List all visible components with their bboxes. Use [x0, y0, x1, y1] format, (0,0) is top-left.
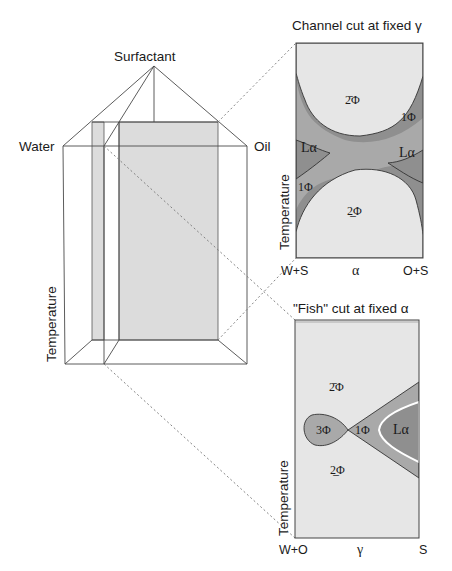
channel-region-la-left: Lα	[301, 140, 318, 155]
phase-diagram-figure: Surfactant Water Oil Temperature Channel…	[0, 0, 452, 571]
surfactant-label: Surfactant	[114, 49, 176, 64]
channel-x-mid-label: α	[352, 263, 360, 278]
oil-label: Oil	[254, 139, 271, 154]
channel-cut-title: Channel cut at fixed γ	[292, 18, 422, 33]
gamma-plane-slice	[119, 122, 218, 340]
channel-x-right-label: O+S	[403, 264, 428, 278]
fish-region-la: Lα	[393, 422, 410, 437]
fish-cut-title: "Fish" cut at fixed α	[293, 301, 409, 316]
fish-x-right-label: S	[419, 543, 427, 557]
fish-x-left-label: W+O	[279, 543, 308, 557]
channel-region-1phi-left: 1Φ	[298, 180, 313, 194]
channel-cut-diagram: Channel cut at fixed γ 2̄Φ 1Φ Lα Lα 1Φ 2…	[277, 18, 428, 278]
fish-region-upper-2phi: 2̄Φ	[329, 380, 344, 394]
water-label: Water	[19, 139, 55, 154]
fish-temperature-label: Temperature	[276, 460, 291, 536]
fish-region-3phi: 3Φ	[316, 423, 331, 437]
fish-region-lower-2phi: 2̲Φ	[330, 463, 345, 477]
channel-region-la-right: Lα	[399, 145, 416, 160]
channel-region-upper-2phi: 2̄Φ	[345, 93, 360, 107]
prism-temperature-label: Temperature	[44, 286, 59, 362]
alpha-plane-slice	[92, 122, 104, 340]
fish-region-1phi: 1Φ	[355, 423, 370, 437]
channel-region-1phi-right: 1Φ	[401, 110, 416, 124]
fish-cut-diagram: "Fish" cut at fixed α 2̄Φ 3Φ 1Φ Lα 2̲Φ T…	[276, 301, 427, 557]
fish-x-mid-label: γ	[356, 542, 363, 557]
phase-prism	[63, 66, 247, 364]
channel-temperature-label: Temperature	[277, 174, 292, 250]
channel-x-left-label: W+S	[281, 264, 308, 278]
channel-region-lower-2phi: 2̲Φ	[347, 204, 362, 218]
